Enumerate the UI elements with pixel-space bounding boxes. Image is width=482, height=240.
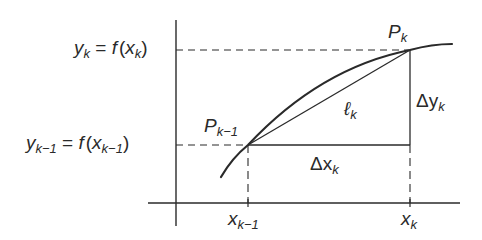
paren-close: ) (123, 132, 129, 153)
arc-length-diagram (0, 0, 482, 240)
label-p: P (204, 115, 217, 136)
equals: = (90, 37, 112, 58)
label-p-sub: k−1 (217, 124, 238, 139)
label-delta-xk: Δxk (310, 154, 339, 173)
label-delta-yk: Δyk (416, 91, 445, 110)
label-yk-1: y (26, 132, 36, 153)
label-ell-sub: k (350, 107, 357, 122)
label-f: f (112, 37, 117, 58)
label-yk-sub: k (84, 46, 91, 61)
label-p-sub: k (401, 30, 408, 45)
label-point-pk: Pk (388, 22, 407, 41)
label-delta-y-sub: k (438, 99, 445, 114)
label-tick-xk-1: xk−1 (228, 209, 259, 228)
label-xk-1-sub: k−1 (102, 141, 123, 156)
label-p: P (388, 21, 401, 42)
label-yk-1-equation: yk−1 = f(xk−1) (26, 133, 129, 152)
label-x-sub: k−1 (238, 217, 259, 232)
label-delta-y: Δy (416, 90, 438, 111)
chord-lk (248, 50, 410, 145)
paren-close: ) (141, 37, 147, 58)
label-xk-sub: k (135, 46, 142, 61)
label-x: x (401, 208, 411, 229)
label-f: f (78, 132, 83, 153)
label-yk: y (74, 37, 84, 58)
label-xk: x (125, 37, 135, 58)
label-tick-xk: xk (401, 209, 417, 228)
label-point-pk-1: Pk−1 (204, 116, 238, 135)
label-yk-equation: yk = f(xk) (74, 38, 148, 57)
label-x-sub: k (411, 217, 418, 232)
equals: = (57, 132, 79, 153)
label-yk-1-sub: k−1 (36, 141, 57, 156)
label-chord-lk: ℓk (344, 99, 357, 118)
label-x: x (228, 208, 238, 229)
label-delta-x: Δx (310, 153, 332, 174)
label-delta-x-sub: k (332, 162, 339, 177)
label-xk-1: x (92, 132, 102, 153)
